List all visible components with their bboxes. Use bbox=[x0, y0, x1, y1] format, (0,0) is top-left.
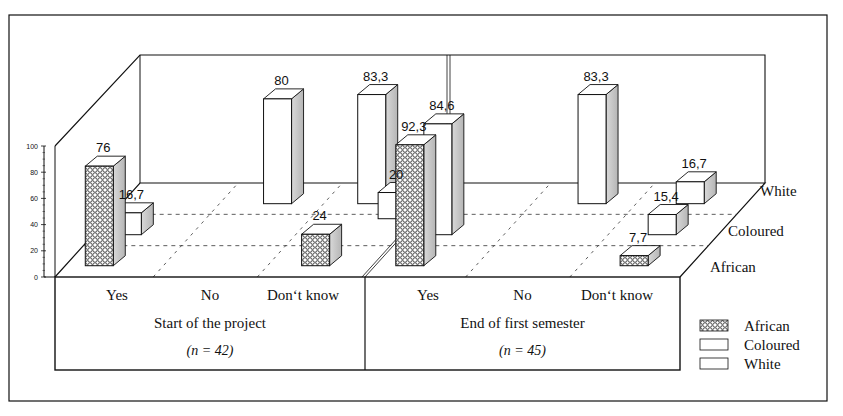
floor-category-gridline bbox=[466, 183, 551, 277]
legend: AfricanColouredWhite bbox=[700, 318, 800, 372]
legend-label-white: White bbox=[744, 356, 781, 372]
legend-swatch-african bbox=[700, 320, 728, 331]
bar-side bbox=[606, 85, 618, 204]
y-axis: 020406080100 bbox=[26, 143, 55, 281]
value-label: 84,6 bbox=[429, 98, 454, 113]
legend-swatch-white bbox=[700, 358, 728, 369]
chart-3d-bar: 020406080100 8083,383,316,72016,784,615,… bbox=[0, 0, 843, 416]
y-tick-label: 20 bbox=[30, 247, 38, 254]
legend-label-coloured: Coloured bbox=[744, 337, 800, 353]
category-label: Don‘t know bbox=[581, 287, 653, 303]
bar-white bbox=[264, 89, 304, 204]
bar-front bbox=[648, 215, 676, 235]
floor-category-gridline bbox=[153, 183, 238, 277]
group-n-label: (n = 42) bbox=[187, 343, 234, 359]
value-label: 92,3 bbox=[401, 119, 426, 134]
bar-front bbox=[264, 99, 292, 204]
category-label: Yes bbox=[417, 287, 439, 303]
value-label: 20 bbox=[389, 167, 403, 182]
value-label: 83,3 bbox=[363, 69, 388, 84]
value-label: 24 bbox=[312, 208, 326, 223]
bar-coloured bbox=[648, 205, 688, 235]
bar-front bbox=[676, 182, 704, 204]
value-label: 7,7 bbox=[629, 230, 647, 245]
bar-side bbox=[292, 89, 304, 204]
value-label: 76 bbox=[96, 140, 110, 155]
bar-african bbox=[85, 156, 125, 266]
value-label: 16,7 bbox=[682, 156, 707, 171]
group-label: Start of the project bbox=[154, 315, 267, 331]
category-label: No bbox=[513, 287, 531, 303]
category-label: Yes bbox=[106, 287, 128, 303]
value-label: 15,4 bbox=[654, 189, 679, 204]
value-label: 83,3 bbox=[583, 69, 608, 84]
bar-front bbox=[620, 256, 648, 266]
bar-front bbox=[85, 166, 113, 266]
group-n-label: (n = 45) bbox=[499, 343, 546, 359]
bar-front bbox=[396, 145, 424, 266]
depth-label-african: African bbox=[710, 259, 756, 275]
bar-white bbox=[578, 85, 618, 204]
bar-front bbox=[578, 95, 606, 204]
bar-white bbox=[676, 172, 716, 204]
depth-label-coloured: Coloured bbox=[728, 223, 784, 239]
y-tick-label: 60 bbox=[30, 195, 38, 202]
bar-african bbox=[302, 224, 342, 265]
depth-label-white: White bbox=[760, 183, 797, 199]
y-tick-label: 100 bbox=[26, 143, 38, 150]
legend-label-african: African bbox=[744, 318, 790, 334]
value-label: 16,7 bbox=[119, 187, 144, 202]
legend-swatch-coloured bbox=[700, 339, 728, 350]
bar-side bbox=[452, 114, 464, 235]
y-tick-label: 80 bbox=[30, 169, 38, 176]
bar-front bbox=[358, 95, 386, 204]
bar-side bbox=[424, 135, 436, 266]
bar-front bbox=[302, 234, 330, 265]
y-tick-label: 0 bbox=[34, 274, 38, 281]
group-label: End of first semester bbox=[460, 315, 585, 331]
bar-african bbox=[396, 135, 436, 266]
y-tick-label: 40 bbox=[30, 221, 38, 228]
bar-african bbox=[620, 246, 660, 266]
category-label: Don‘t know bbox=[267, 287, 339, 303]
category-table: YesNoDon‘t knowStart of the project(n = … bbox=[55, 277, 680, 370]
bar-side bbox=[113, 156, 125, 266]
category-label: No bbox=[201, 287, 219, 303]
value-label: 80 bbox=[274, 73, 288, 88]
